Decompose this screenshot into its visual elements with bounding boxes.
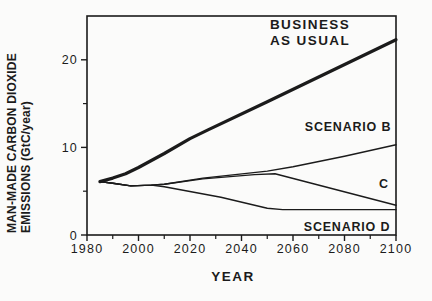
scenario-b-label: SCENARIO B (305, 120, 391, 134)
x-tick-label-2080: 2080 (328, 242, 361, 256)
y-tick-label-10: 10 (62, 141, 78, 155)
series-line-business-as-usual (100, 40, 396, 182)
y-axis-title-line2: EMISSIONS (GtC/year) (19, 101, 33, 233)
x-tick-label-1980: 1980 (71, 242, 104, 256)
y-tick-label-20: 20 (62, 53, 78, 67)
x-tick-label-2040: 2040 (225, 242, 258, 256)
series-line-scenario-c (100, 174, 396, 206)
plot-area: 198020002020204020602080210001020 MAN-MA… (0, 0, 432, 301)
scenario-c-label: C (379, 177, 389, 191)
scenario-d-label: SCENARIO D (304, 220, 390, 234)
y-tick-label-0: 0 (70, 229, 78, 243)
x-tick-label-2020: 2020 (174, 242, 207, 256)
x-tick-label-2000: 2000 (122, 242, 155, 256)
x-tick-label-2100: 2100 (380, 242, 413, 256)
business-as-usual-label-line2: AS USUAL (270, 33, 350, 48)
series-line-scenario-d (100, 182, 396, 210)
x-tick-label-2060: 2060 (277, 242, 310, 256)
x-axis-title: YEAR (211, 269, 255, 284)
y-axis-title-line1: MAN-MADE CARBON DIOXIDE (5, 53, 19, 233)
business-as-usual-label-line1: BUSINESS (270, 17, 350, 32)
emissions-scenarios-chart: 198020002020204020602080210001020 MAN-MA… (0, 0, 432, 301)
